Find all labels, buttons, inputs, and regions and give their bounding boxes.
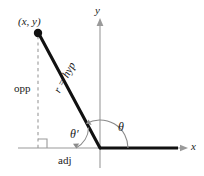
theta-prime-arc-arrowhead [73, 143, 79, 148]
theta-angle-label: θ [118, 121, 124, 133]
x-axis-label: x [191, 141, 196, 152]
adjacent-side-label: adj [58, 155, 71, 166]
point-coordinates-label: (x, y) [18, 16, 41, 27]
reference-angle-figure: (x, y) opp adj r = hyp θ θ′ y x [0, 0, 204, 176]
y-axis-arrowhead [97, 18, 104, 26]
y-axis-label: y [95, 5, 100, 16]
x-axis-arrowhead [180, 145, 188, 151]
right-angle-marker [38, 139, 47, 148]
opposite-side-label: opp [14, 83, 31, 94]
terminal-point-dot [34, 29, 42, 37]
theta-prime-angle-label: θ′ [70, 128, 79, 140]
